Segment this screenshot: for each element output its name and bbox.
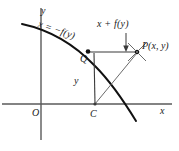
point-label-p: P(x, y): [142, 41, 169, 51]
segment-qc: [94, 53, 95, 104]
point-marker-c: [93, 102, 96, 105]
figure-container: y x O x = −f(y) x + f(y) P(x, y) Q y C: [0, 0, 179, 151]
curve-x-equals-negative-f-of-y: [22, 24, 136, 121]
segment-length-label-vertical: y: [74, 76, 78, 86]
point-label-q: Q: [80, 54, 87, 64]
x-axis-label: x: [160, 106, 164, 116]
segment-cp: [95, 53, 137, 104]
y-axis-label: y: [41, 6, 45, 16]
diagram-canvas: [0, 0, 179, 151]
point-label-c: C: [90, 109, 97, 119]
annotation-arrow-head: [123, 46, 129, 53]
origin-label: O: [32, 108, 39, 118]
segment-length-label-top: x + f(y): [97, 19, 129, 29]
